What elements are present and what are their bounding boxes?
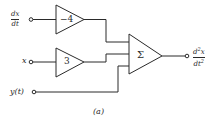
label-dxdt: dx dt: [11, 11, 19, 28]
gain-top: −4: [60, 15, 73, 24]
wire-top-to-summer: [84, 20, 129, 43]
diagram-canvas: [0, 0, 217, 128]
label-dxdt-den: dt: [12, 21, 19, 28]
label-output-den: dt2: [194, 59, 204, 68]
terminal-x: [29, 60, 33, 64]
amplifier-mid: [56, 48, 84, 77]
gain-mid: 3: [64, 57, 70, 66]
label-output: d2x dt2: [193, 47, 205, 68]
terminal-output: [185, 54, 189, 58]
terminal-dxdt: [29, 18, 33, 22]
caption: (a): [93, 108, 104, 116]
label-dxdt-num: dx: [11, 11, 19, 18]
summer-symbol: Σ: [137, 50, 144, 60]
label-y: y(t): [10, 88, 24, 96]
wire-mid-to-summer: [84, 54, 129, 62]
label-x: x: [22, 57, 27, 65]
wire-y-to-summer: [36, 66, 129, 92]
summer: [129, 34, 162, 74]
label-output-num: d2x: [193, 47, 205, 56]
terminal-y: [32, 90, 36, 94]
